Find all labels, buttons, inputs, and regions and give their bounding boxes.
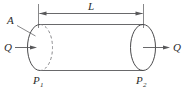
inlet-flow-group: Q [4,41,37,53]
inlet-pressure-label-group: P 1 [32,74,44,89]
inlet-flow-arrowhead-icon [30,45,37,49]
pipe-flow-diagram: L A Q [0,0,186,95]
outlet-flow-arrowhead-icon [163,45,170,49]
inlet-pressure-subscript: 1 [40,81,44,89]
outlet-flow-label: Q [173,41,181,53]
outlet-flow-group: Q [143,41,181,53]
inlet-flow-label: Q [4,41,12,53]
outlet-pressure-subscript: 2 [143,81,147,89]
length-label: L [87,0,94,12]
area-leader-line [17,26,36,37]
length-arrowhead-right-icon [136,11,144,15]
area-label: A [6,14,14,26]
outlet-pressure-label-group: P 2 [135,74,147,89]
left-face-hidden-arc [40,25,52,71]
area-label-group: A [6,14,36,36]
figure-container: L A Q [0,0,186,95]
outlet-pressure-symbol: P [135,74,143,86]
length-arrowhead-left-icon [39,11,47,15]
cylinder-body-group [40,25,143,71]
inlet-pressure-symbol: P [32,74,40,86]
length-dimension-group: L [39,0,144,28]
